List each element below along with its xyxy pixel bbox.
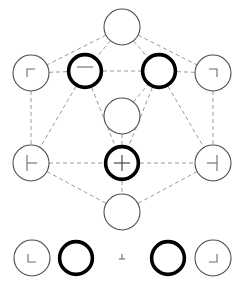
graph-node[interactable] — [195, 55, 231, 91]
graph-edge — [49, 72, 67, 73]
graph-edge — [97, 41, 111, 57]
graph-edge — [134, 41, 148, 57]
node-circle-thin — [195, 55, 231, 91]
node-circle-bold — [60, 242, 93, 275]
node-circle-thin — [14, 240, 50, 276]
graph-node[interactable] — [143, 55, 176, 88]
node-layer — [13, 9, 231, 230]
graph-edge — [133, 85, 147, 102]
legend-item[interactable] — [195, 240, 231, 276]
graph-node[interactable] — [104, 9, 140, 45]
graph-node[interactable] — [195, 145, 231, 181]
diagram-canvas — [0, 0, 244, 282]
node-circle-thin — [104, 98, 140, 134]
graph-node[interactable] — [13, 55, 49, 91]
graph-node[interactable] — [69, 55, 102, 88]
node-circle-thin — [195, 240, 231, 276]
graph-edge — [168, 87, 204, 148]
graph-edge — [40, 87, 76, 148]
node-circle-thin — [104, 9, 140, 45]
graph-edge — [177, 72, 195, 73]
graph-node[interactable] — [13, 145, 49, 181]
graph-edge — [47, 172, 106, 204]
legend-item[interactable] — [152, 242, 185, 275]
graph-node[interactable] — [104, 98, 140, 134]
node-circle-thin — [13, 55, 49, 91]
graph-node[interactable] — [106, 147, 139, 180]
node-circle-bold — [69, 55, 102, 88]
legend-layer — [14, 240, 231, 276]
node-circle-bold — [152, 242, 185, 275]
legend-item[interactable] — [119, 254, 125, 259]
graph-edge — [138, 172, 197, 204]
network-graph-svg — [0, 0, 244, 282]
graph-node[interactable] — [104, 194, 140, 230]
node-circle-thin — [104, 194, 140, 230]
legend-item[interactable] — [14, 240, 50, 276]
node-circle-bold — [143, 55, 176, 88]
legend-item[interactable] — [60, 242, 93, 275]
